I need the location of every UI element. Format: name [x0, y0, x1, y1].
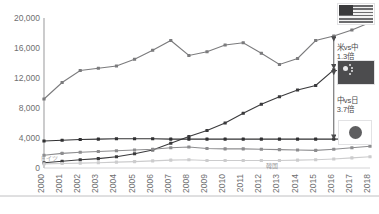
y-tick-label: 8,000 [19, 103, 41, 113]
series-marker [169, 142, 172, 145]
series-marker [205, 159, 208, 162]
x-tick-label: 2017 [344, 174, 354, 193]
series-marker [224, 43, 227, 46]
x-tick-label: 2004 [108, 174, 118, 193]
series-marker [350, 146, 353, 149]
jp-flag-disc [349, 126, 362, 139]
series-marker [242, 147, 245, 150]
x-tick-label: 2009 [199, 174, 209, 193]
series-marker [224, 159, 227, 162]
series-marker [314, 149, 317, 152]
series-marker [332, 157, 335, 160]
series-marker [242, 41, 245, 44]
series-marker [368, 145, 371, 148]
us-flag-canton [339, 5, 353, 15]
series-marker [151, 159, 154, 162]
y-tick-label: 16,000 [14, 43, 40, 53]
series-marker [278, 95, 281, 98]
series-marker [296, 159, 299, 162]
cn-vs-jp-label-line1: 中vs日 [337, 95, 359, 105]
jp-flag-legend [338, 120, 372, 145]
series-marker [169, 138, 172, 141]
series-marker [115, 64, 118, 67]
series-marker [296, 57, 299, 60]
x-tick-label: 2015 [308, 174, 318, 193]
cn-flag-star-2 [351, 67, 353, 69]
x-tick-label: 2005 [127, 174, 137, 193]
series-marker [133, 148, 136, 151]
series-marker [205, 50, 208, 53]
series-marker [169, 159, 172, 162]
series-marker [205, 147, 208, 150]
series-marker [332, 148, 335, 151]
x-tick-label: 2014 [290, 174, 300, 193]
series-marker [296, 148, 299, 151]
series-marker [242, 112, 245, 115]
series-marker [169, 146, 172, 149]
series-marker [115, 149, 118, 152]
series-marker [350, 156, 353, 159]
series-marker [187, 158, 190, 161]
series-marker [61, 81, 64, 84]
series-marker [115, 155, 118, 158]
cn-flag-star-4 [349, 73, 351, 75]
series-marker [224, 147, 227, 150]
series-marker [42, 97, 45, 100]
series-marker [332, 138, 335, 141]
series-marker [260, 159, 263, 162]
y-tick-label: 0 [35, 163, 40, 173]
x-tick-label: 2003 [90, 174, 100, 193]
series-marker [42, 139, 45, 142]
series-marker [260, 138, 263, 141]
us-vs-cn-label-line1: 米vs中 [337, 42, 359, 52]
us-flag-icon [339, 5, 373, 23]
series-marker [42, 162, 45, 165]
us-flag-legend [337, 3, 375, 25]
series-marker [350, 28, 353, 31]
series-marker [224, 121, 227, 124]
x-tick-label: 2013 [271, 174, 281, 193]
series-marker [133, 58, 136, 61]
series-layer [42, 21, 371, 166]
x-tick-label: 2011 [235, 174, 245, 193]
x-tick-label: 2010 [217, 174, 227, 193]
series-marker [205, 129, 208, 132]
series-marker [151, 137, 154, 140]
series-marker [278, 138, 281, 141]
x-tick-label: 2008 [181, 174, 191, 193]
chart-canvas: 04,0008,00012,00016,00020,000 2000200120… [0, 0, 379, 214]
series-line [44, 23, 370, 100]
series-marker [97, 157, 100, 160]
series-marker [242, 138, 245, 141]
cn-flag-star-1 [349, 64, 351, 66]
series-marker [79, 162, 82, 165]
cn-flag-star-3 [351, 70, 353, 72]
x-tick-label: 2012 [253, 174, 263, 193]
series-marker [260, 148, 263, 151]
y-tick-label: 12,000 [14, 73, 40, 83]
series-marker [296, 138, 299, 141]
y-tick-label: 4,000 [19, 133, 41, 143]
series-marker [187, 145, 190, 148]
series-marker [278, 159, 281, 162]
series-marker [187, 54, 190, 57]
cn-vs-jp-label-line2: 3.7倍 [337, 104, 355, 114]
series-marker [314, 158, 317, 161]
series-marker [61, 139, 64, 142]
series-marker [79, 158, 82, 161]
series-marker [332, 68, 335, 71]
series-marker [115, 161, 118, 164]
series-marker [224, 138, 227, 141]
cn-flag-star-big [343, 66, 348, 71]
line-chart: 04,0008,00012,00016,00020,000 2000200120… [0, 0, 379, 214]
series-marker [79, 69, 82, 72]
series-marker [97, 138, 100, 141]
jp-flag-icon [339, 121, 371, 144]
series-marker [79, 138, 82, 141]
series-marker [205, 138, 208, 141]
series-marker [260, 103, 263, 106]
series-marker [169, 39, 172, 42]
series-marker [314, 138, 317, 141]
series-marker [368, 155, 371, 158]
x-tick-label: 2006 [145, 174, 155, 193]
